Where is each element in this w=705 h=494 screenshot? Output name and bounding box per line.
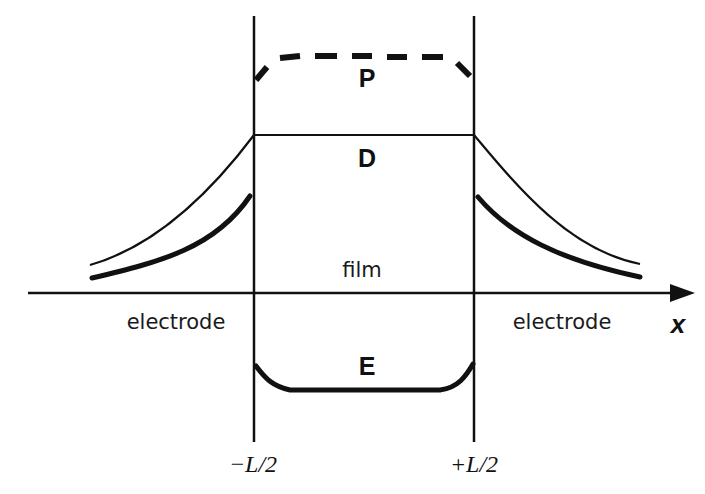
left-boundary-label: −L/2: [229, 451, 277, 477]
right-boundary-label: +L/2: [450, 451, 498, 477]
left-electrode-label: electrode: [127, 310, 226, 334]
film-label: film: [342, 258, 382, 282]
x-axis-label: x: [669, 309, 687, 339]
d-label: D: [358, 144, 376, 172]
p-label: P: [359, 64, 376, 92]
right-electrode-label: electrode: [513, 310, 612, 334]
e-label: E: [359, 352, 376, 380]
diagram-canvas: P D E film electrode electrode x −L/2 +L…: [0, 0, 705, 494]
x-axis: [28, 284, 695, 302]
axis-arrow-icon: [670, 284, 695, 302]
